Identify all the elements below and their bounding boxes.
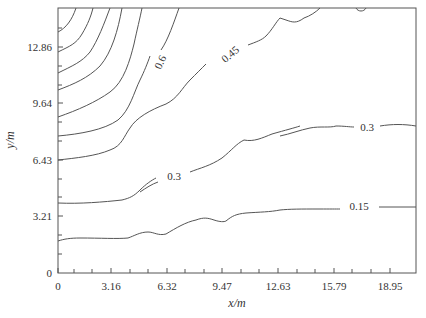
x-tick-label: 3.16 xyxy=(101,280,121,292)
x-tick-labels: 0 3.16 6.32 9.47 12.63 15.79 18.95 xyxy=(55,280,403,292)
y-tick-label: 3.21 xyxy=(33,210,52,222)
contour-label-0.3: 0.3 xyxy=(167,170,181,182)
x-tick-label: 18.95 xyxy=(378,280,403,292)
x-tick-label: 6.32 xyxy=(157,280,176,292)
x-axis-ticks xyxy=(58,268,390,273)
contour-label-0.15: 0.15 xyxy=(349,200,369,212)
x-tick-label: 9.47 xyxy=(212,280,232,292)
contour-line-0.45 xyxy=(248,8,320,45)
contour-label-0.6: 0.6 xyxy=(152,53,169,71)
x-tick-label: 15.79 xyxy=(322,280,347,292)
contour-label-0.3: 0.3 xyxy=(360,121,374,133)
contour-labels: 0.6 0.45 0.3 0.3 0.15 xyxy=(152,43,375,212)
contour-line xyxy=(58,8,142,117)
contour-line-0.45 xyxy=(58,64,206,160)
x-tick-label: 12.63 xyxy=(266,280,291,292)
y-tick-label: 9.64 xyxy=(33,97,53,109)
y-tick-label: 6.43 xyxy=(33,154,53,166)
y-tick-label: 0 xyxy=(47,267,53,279)
y-axis-ticks xyxy=(58,28,63,254)
x-tick-label: 0 xyxy=(55,280,61,292)
y-tick-label: 12.86 xyxy=(27,41,52,53)
contour-line-0.15 xyxy=(58,209,340,241)
y-axis-label: y/m xyxy=(3,131,17,150)
contour-chart: 0 3.16 6.32 9.47 12.63 15.79 18.95 0 3.2… xyxy=(0,0,426,318)
contour-line-0.3 xyxy=(190,126,300,172)
contour-line-0.3 xyxy=(280,126,354,136)
contour-line-0.3 xyxy=(380,125,416,127)
contour-label-0.45: 0.45 xyxy=(219,43,242,65)
y-tick-labels: 0 3.21 6.43 9.64 12.86 xyxy=(27,41,52,279)
contour-line-0.6 xyxy=(161,8,179,50)
contour-line xyxy=(58,8,122,90)
contour-line xyxy=(58,8,93,52)
x-axis-label: x/m xyxy=(227,296,246,310)
